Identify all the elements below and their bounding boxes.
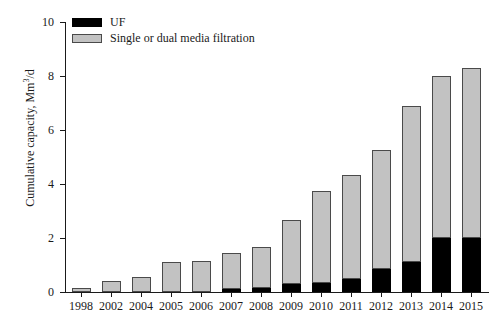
y-tick-label-2: 2 <box>26 232 54 244</box>
bar-segment-media-filtration-2009 <box>282 220 301 283</box>
bar-2008 <box>252 247 271 292</box>
y-tick-label-text: 2 <box>26 232 54 244</box>
bar-2006 <box>192 261 211 292</box>
bar-2013 <box>402 106 421 292</box>
y-tick-label-4: 4 <box>26 178 54 190</box>
x-tick-2011 <box>351 292 352 297</box>
y-tick-0 <box>60 292 66 293</box>
x-tick-2008 <box>261 292 262 297</box>
bar-segment-media-filtration-2015 <box>462 68 481 238</box>
bar-segment-media-filtration-2013 <box>402 106 421 263</box>
y-tick-label-6: 6 <box>26 124 54 136</box>
bar-segment-media-filtration-2002 <box>102 281 121 292</box>
bar-2011 <box>342 175 361 292</box>
x-tick-2014 <box>441 292 442 297</box>
bar-segment-uf-2015 <box>462 238 481 292</box>
bar-segment-media-filtration-2005 <box>162 262 181 292</box>
bar-2005 <box>162 262 181 292</box>
bar-segment-uf-2010 <box>312 283 331 292</box>
bar-segment-media-filtration-2014 <box>432 76 451 238</box>
bar-2002 <box>102 281 121 292</box>
x-tick-2010 <box>321 292 322 297</box>
bar-segment-media-filtration-2007 <box>222 253 241 289</box>
bar-segment-media-filtration-2008 <box>252 247 271 288</box>
y-tick-label-8: 8 <box>26 70 54 82</box>
y-tick-label-text: 4 <box>26 178 54 190</box>
x-tick-2007 <box>231 292 232 297</box>
x-axis-line <box>65 292 489 293</box>
y-tick-label-0: 0 <box>26 286 54 298</box>
bar-2014 <box>432 76 451 292</box>
plot-area <box>66 22 486 292</box>
bar-2009 <box>282 220 301 292</box>
bar-segment-media-filtration-2012 <box>372 150 391 269</box>
x-tick-2009 <box>291 292 292 297</box>
y-axis-title: Cumulative capacity, Mm3/d <box>22 38 38 238</box>
y-tick-label-text: 0 <box>26 286 54 298</box>
bar-2007 <box>222 253 241 292</box>
bar-chart: Cumulative capacity, Mm3/d 0246810 19982… <box>0 0 499 329</box>
y-tick-label-text: 8 <box>26 70 54 82</box>
y-tick-label-text: 6 <box>26 124 54 136</box>
x-tick-2002 <box>111 292 112 297</box>
x-tick-1998 <box>81 292 82 297</box>
bar-2004 <box>132 277 151 292</box>
bar-segment-media-filtration-2010 <box>312 191 331 283</box>
bar-2012 <box>372 150 391 292</box>
legend-item-media-filtration: Single or dual media filtration <box>72 30 255 46</box>
x-tick-2012 <box>381 292 382 297</box>
bar-segment-media-filtration-2006 <box>192 261 211 292</box>
bar-segment-uf-2011 <box>342 279 361 293</box>
x-tick-label-2015: 2015 <box>453 300 489 313</box>
x-tick-2004 <box>141 292 142 297</box>
legend-label-media-filtration: Single or dual media filtration <box>110 32 255 45</box>
legend-swatch-media-filtration <box>72 34 102 43</box>
x-tick-2005 <box>171 292 172 297</box>
x-tick-2006 <box>201 292 202 297</box>
legend: UF Single or dual media filtration <box>72 14 255 46</box>
bar-2015 <box>462 68 481 292</box>
legend-swatch-uf <box>72 18 102 27</box>
x-tick-2015 <box>471 292 472 297</box>
bar-segment-uf-2009 <box>282 284 301 292</box>
y-tick-label-text: 10 <box>26 16 54 28</box>
legend-label-uf: UF <box>110 16 125 29</box>
bar-segment-uf-2012 <box>372 269 391 292</box>
y-tick-label-10: 10 <box>26 16 54 28</box>
bar-segment-uf-2014 <box>432 238 451 292</box>
bar-segment-media-filtration-2011 <box>342 175 361 279</box>
bar-2010 <box>312 191 331 292</box>
x-tick-2013 <box>411 292 412 297</box>
bar-segment-uf-2013 <box>402 262 421 292</box>
legend-item-uf: UF <box>72 14 255 30</box>
bar-segment-media-filtration-2004 <box>132 277 151 292</box>
